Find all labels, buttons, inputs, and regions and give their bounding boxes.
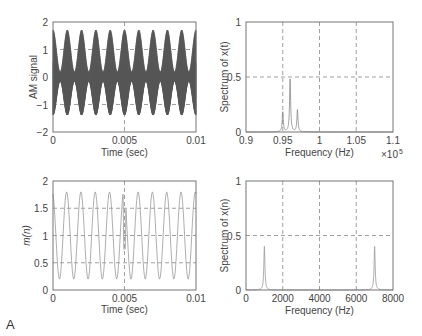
x-tick-label: 1 bbox=[317, 135, 323, 146]
x-tick-label: 0.01 bbox=[186, 135, 206, 146]
y-tick-label: 0 bbox=[42, 285, 48, 296]
figure: 00.0050.01210−1−2Time (sec)AM signal0.90… bbox=[0, 0, 422, 336]
axes-m-n bbox=[53, 181, 196, 290]
y-tick-label: −1 bbox=[37, 100, 49, 111]
x-tick-label: 2000 bbox=[272, 293, 295, 304]
x-tick-label: 0 bbox=[50, 135, 56, 146]
y-axis-label: Spectrum of x(t) bbox=[219, 41, 230, 112]
panel-label: A bbox=[6, 317, 15, 332]
y-tick-label: 0 bbox=[235, 285, 241, 296]
y-tick-label: 1 bbox=[42, 45, 48, 56]
axes-spectrum-xn bbox=[246, 181, 393, 290]
y-axis-label: AM signal bbox=[28, 55, 39, 99]
x-tick-label: 6000 bbox=[345, 293, 368, 304]
axes-spectrum-xt bbox=[246, 22, 393, 132]
y-tick-label: 2 bbox=[42, 176, 48, 187]
x-axis-label: Time (sec) bbox=[101, 147, 148, 158]
x-tick-label: 0 bbox=[50, 293, 56, 304]
x-tick-label: 1.1 bbox=[386, 135, 400, 146]
x-tick-label: 0.01 bbox=[186, 293, 206, 304]
y-tick-label: 1 bbox=[235, 17, 241, 28]
y-tick-label: 0.5 bbox=[34, 258, 48, 269]
y-tick-label: 1 bbox=[235, 176, 241, 187]
x-tick-label: 0.95 bbox=[273, 135, 293, 146]
y-tick-label: −2 bbox=[37, 127, 49, 138]
x-tick-label: 0 bbox=[243, 293, 249, 304]
x-tick-label: 0.9 bbox=[239, 135, 253, 146]
x-multiplier: ×10 bbox=[381, 149, 398, 160]
am-signal-line bbox=[53, 30, 196, 115]
x-axis-label: Frequency (Hz) bbox=[285, 305, 354, 316]
y-tick-label: 0 bbox=[235, 127, 241, 138]
y-tick-label: 2 bbox=[42, 17, 48, 28]
x-tick-label: 0.005 bbox=[112, 135, 137, 146]
x-tick-label: 1.05 bbox=[347, 135, 367, 146]
axes-am-signal bbox=[53, 22, 196, 132]
x-tick-label: 4000 bbox=[308, 293, 331, 304]
y-tick-label: 0 bbox=[42, 72, 48, 83]
x-multiplier-exponent: 5 bbox=[399, 148, 403, 155]
x-axis-label: Frequency (Hz) bbox=[285, 147, 354, 158]
x-tick-label: 0.005 bbox=[112, 293, 137, 304]
x-axis-label: Time (sec) bbox=[101, 304, 148, 315]
y-axis-label: m(n) bbox=[21, 225, 32, 246]
x-tick-label: 8000 bbox=[382, 293, 405, 304]
y-axis-label: Spectrum of x(n) bbox=[219, 199, 230, 273]
y-tick-label: 1.5 bbox=[34, 203, 48, 214]
y-tick-label: 1 bbox=[42, 231, 48, 242]
